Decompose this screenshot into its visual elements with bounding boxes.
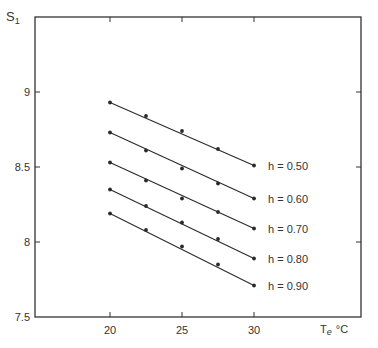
axis-ticks [35, 17, 361, 317]
data-point [216, 237, 220, 241]
series-label: h = 0.80 [268, 253, 308, 265]
data-point [108, 131, 112, 135]
data-point [108, 212, 112, 216]
data-point [180, 221, 184, 225]
series-label: h = 0.50 [268, 160, 308, 172]
plot-frame [35, 17, 361, 317]
data-point [144, 228, 148, 232]
y-tick-label: 7.5 [15, 311, 30, 323]
x-tick-label: 25 [176, 324, 188, 336]
data-point [252, 164, 256, 168]
data-point [252, 257, 256, 261]
x-axis-label: Te°C [320, 323, 348, 337]
data-point [252, 197, 256, 201]
series-label: h = 0.60 [268, 193, 308, 205]
data-point [144, 149, 148, 153]
data-point [180, 129, 184, 133]
series-group: h = 0.50h = 0.60h = 0.70h = 0.80h = 0.90 [108, 101, 308, 292]
data-point [216, 182, 220, 186]
axis-tick-labels: 7.588.59202530 [15, 86, 260, 336]
chart: 7.588.59202530 h = 0.50h = 0.60h = 0.70h… [0, 0, 378, 348]
data-point [144, 179, 148, 183]
data-point [144, 114, 148, 118]
data-point [216, 147, 220, 151]
y-tick-label: 8 [24, 236, 30, 248]
data-point [180, 245, 184, 249]
series-line: h = 0.50 [108, 101, 308, 172]
data-point [180, 197, 184, 201]
data-point [252, 227, 256, 231]
data-point [180, 167, 184, 171]
data-point [108, 161, 112, 165]
series-label: h = 0.90 [268, 280, 308, 292]
data-point [216, 210, 220, 214]
data-point [252, 284, 256, 288]
y-tick-label: 8.5 [15, 161, 30, 173]
y-tick-label: 9 [24, 86, 30, 98]
data-point [216, 263, 220, 267]
data-point [108, 188, 112, 192]
data-point [144, 204, 148, 208]
x-tick-label: 20 [104, 324, 116, 336]
series-label: h = 0.70 [268, 223, 308, 235]
data-point [108, 101, 112, 105]
y-axis-label: S1 [6, 9, 20, 26]
x-tick-label: 30 [248, 324, 260, 336]
